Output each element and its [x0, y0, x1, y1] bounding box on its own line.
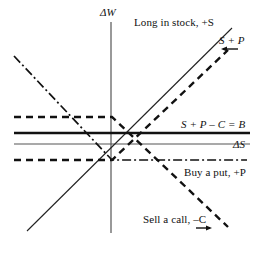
long-stock-label: Long in stock, +S — [134, 17, 214, 28]
y-axis-label: ΔW — [100, 7, 116, 18]
buy-put-label: Buy a put, +P — [184, 167, 246, 178]
synthetic-bond-label: S + P – C = B — [181, 119, 245, 130]
sell-call-label: Sell a call, –C — [143, 214, 206, 225]
sell-call-pointer-arrow — [196, 226, 212, 231]
stock-plus-put-label: S + P — [219, 35, 245, 46]
payoff-diagram-figure: ΔW Long in stock, +S S + P S + P – C = B… — [0, 0, 259, 261]
x-axis-label: ΔS — [233, 139, 245, 150]
stock-plus-put-pointer-arrow — [221, 47, 238, 52]
